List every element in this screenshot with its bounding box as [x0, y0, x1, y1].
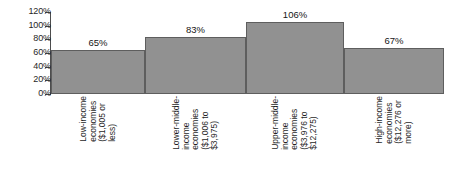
- bar-chart: 0%20%40%60%80%100%120% 65%83%106%67% Low…: [0, 0, 459, 174]
- x-axis-category-label-line: economies: [191, 96, 201, 150]
- x-axis-category-label-text: Low-incomeeconomies($1,005 orless): [79, 96, 117, 142]
- x-axis-category-label-line: more): [404, 96, 414, 144]
- x-axis-category-label-text: Upper-middle-incomeeconomies($3,976 to$1…: [271, 96, 319, 150]
- bar: [145, 37, 246, 94]
- x-axis-category-label: Lower-middle-incomeeconomies($1,006 to$3…: [145, 96, 246, 174]
- x-axis-category-label-line: Lower-middle-: [172, 96, 182, 150]
- bar: [51, 50, 145, 94]
- bar: [344, 48, 444, 94]
- x-axis-category-label-line: less): [108, 96, 118, 142]
- y-axis-tick: 120%: [0, 12, 51, 13]
- y-axis-tick-label: 100%: [7, 21, 51, 30]
- x-axis-category-label-text: Lower-middle-incomeeconomies($1,006 to$3…: [172, 96, 220, 150]
- y-axis-tick-label: 20%: [7, 75, 51, 84]
- y-axis-tick: 100%: [0, 26, 51, 27]
- x-axis-category-label-line: $3,975): [210, 96, 220, 150]
- plot-area: 65%83%106%67%: [51, 12, 444, 94]
- y-axis-tick: 40%: [0, 67, 51, 68]
- y-axis-tick-label: 40%: [7, 62, 51, 71]
- x-axis-labels: Low-incomeeconomies($1,005 orless)Lower-…: [51, 96, 444, 174]
- x-axis-category-label-text: High-incomeeconomies($12,276 ormore): [375, 96, 413, 144]
- x-axis-category-label: High-incomeeconomies($12,276 ormore): [344, 96, 444, 174]
- y-axis-tick: 0%: [0, 94, 51, 95]
- y-axis-tick-label: 0%: [7, 89, 51, 98]
- y-axis-tick: 20%: [0, 80, 51, 81]
- bar-value-label: 106%: [246, 10, 344, 20]
- x-axis-category-label-line: $12,275): [309, 96, 319, 150]
- bar: [246, 22, 344, 94]
- y-axis-tick: 80%: [0, 39, 51, 40]
- y-axis-tick-label: 120%: [7, 7, 51, 16]
- bar-value-label: 83%: [145, 25, 246, 35]
- bar-value-label: 67%: [344, 36, 444, 46]
- x-axis-category-label: Low-incomeeconomies($1,005 orless): [51, 96, 145, 174]
- y-axis-tick: 60%: [0, 53, 51, 54]
- bar-value-label: 65%: [51, 38, 145, 48]
- x-axis-category-label: Upper-middle-incomeeconomies($3,976 to$1…: [246, 96, 344, 174]
- y-axis-tick-label: 60%: [7, 48, 51, 57]
- y-axis-tick-label: 80%: [7, 34, 51, 43]
